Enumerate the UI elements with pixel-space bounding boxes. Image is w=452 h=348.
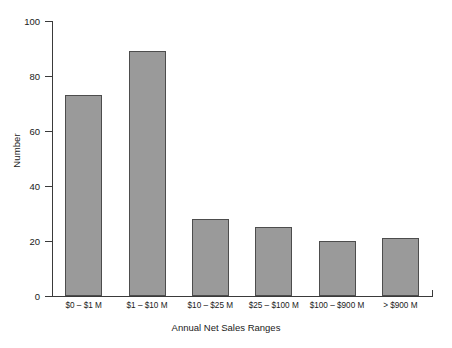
x-axis-title: Annual Net Sales Ranges (0, 322, 452, 333)
bar-chart: Number 0 20 40 60 80 100 $0 – $1 M $1 – … (0, 0, 452, 348)
x-tick-label-5: > $900 M (363, 302, 438, 310)
bar-1 (129, 51, 166, 296)
y-tick-label-60: 60 (10, 127, 40, 137)
y-tick-label-40: 40 (10, 182, 40, 192)
y-tick-0 (45, 296, 53, 297)
plot-area (52, 21, 432, 296)
y-tick-label-100: 100 (10, 17, 40, 27)
bar-0 (65, 95, 102, 296)
y-axis-title: Number (4, 0, 28, 300)
x-axis-line (52, 296, 433, 297)
bar-4 (319, 241, 356, 296)
bar-2 (192, 219, 229, 296)
y-tick-label-0: 0 (10, 292, 40, 302)
bar-3 (255, 227, 292, 296)
y-axis-title-label: Number (11, 133, 22, 167)
y-tick-label-80: 80 (10, 72, 40, 82)
bar-5 (382, 238, 419, 296)
y-tick-label-20: 20 (10, 237, 40, 247)
x-axis-end-tick (432, 290, 433, 297)
